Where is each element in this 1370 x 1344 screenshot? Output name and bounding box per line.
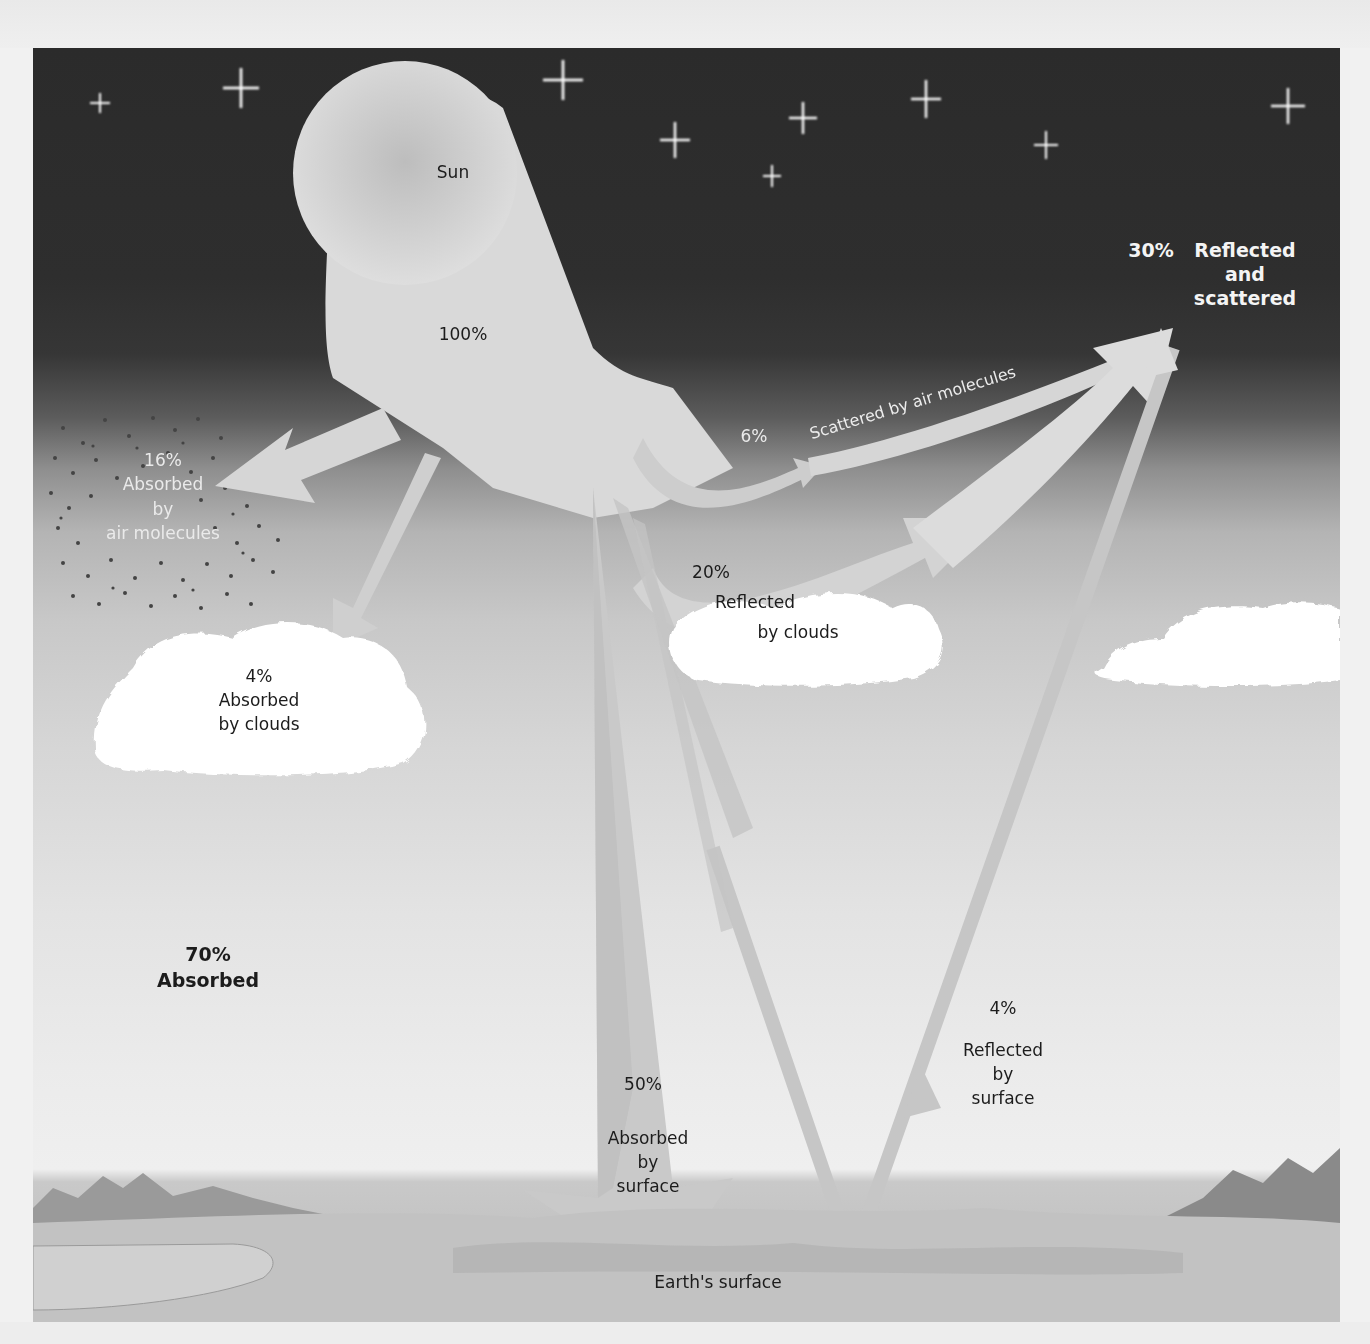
label-reflected-clouds-percent: 20% xyxy=(681,560,741,584)
label-reflected-surface-line2: by xyxy=(948,1062,1058,1086)
label-reflected-clouds-line2: by clouds xyxy=(743,620,853,644)
label-earth-surface: Earth's surface xyxy=(643,1270,793,1294)
label-sun: Sun xyxy=(423,160,483,184)
label-scattered-air-percent: 6% xyxy=(729,424,779,448)
cloud-right xyxy=(1096,602,1340,686)
label-reflected-surface-line3: surface xyxy=(948,1086,1058,1110)
radiation-budget-figure: Sun 100% 30% Reflected and scattered 6% … xyxy=(33,48,1340,1322)
label-reflected-clouds-line1: Reflected xyxy=(705,590,805,614)
label-absorbed-surface-line1: Absorbed xyxy=(593,1126,703,1150)
label-absorbed-surface-percent: 50% xyxy=(613,1072,673,1096)
label-absorbed-clouds-line2: by clouds xyxy=(199,712,319,736)
label-absorbed-surface-line2: by xyxy=(593,1150,703,1174)
label-absorbed-total-percent: 70% xyxy=(163,942,253,966)
page-margin-bottom xyxy=(0,1322,1370,1344)
label-reflected-total-percent: 30% xyxy=(1121,238,1181,262)
sun-disc xyxy=(293,61,517,285)
label-absorbed-air-line3: air molecules xyxy=(88,521,238,545)
label-absorbed-clouds-line1: Absorbed xyxy=(199,688,319,712)
label-absorbed-air-percent: 16% xyxy=(113,448,213,472)
page-margin-top xyxy=(0,0,1370,48)
label-reflected-total-line1: Reflected xyxy=(1185,238,1305,262)
label-absorbed-surface-line3: surface xyxy=(593,1174,703,1198)
label-absorbed-air-line2: by xyxy=(113,497,213,521)
label-absorbed-clouds-percent: 4% xyxy=(209,664,309,688)
arrow-absorbed-air xyxy=(215,408,401,503)
arrow-absorbed-clouds xyxy=(333,453,441,648)
label-reflected-surface-percent: 4% xyxy=(978,996,1028,1020)
label-reflected-total-line2: and xyxy=(1185,262,1305,286)
label-absorbed-air-line1: Absorbed xyxy=(103,472,223,496)
label-reflected-surface-line1: Reflected xyxy=(948,1038,1058,1062)
label-incoming-percent: 100% xyxy=(423,322,503,346)
label-absorbed-total: Absorbed xyxy=(143,968,273,992)
stars xyxy=(90,60,1305,187)
label-reflected-total-line3: scattered xyxy=(1185,286,1305,310)
scanned-page: Sun 100% 30% Reflected and scattered 6% … xyxy=(0,0,1370,1344)
